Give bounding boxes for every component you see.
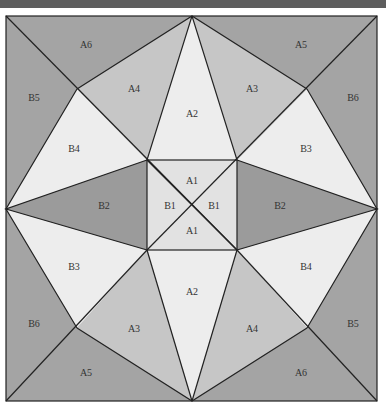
label-a6-top: A6	[80, 39, 92, 50]
label-a3-top: A3	[246, 83, 258, 94]
label-a3-bottom: A3	[128, 323, 140, 334]
label-b6-right: B6	[347, 92, 359, 103]
label-b1-left: B1	[164, 200, 176, 211]
label-b2-left: B2	[98, 200, 110, 211]
label-a2-top: A2	[186, 108, 198, 119]
label-a2-bottom: A2	[186, 286, 198, 297]
label-b4-left: B4	[68, 143, 80, 154]
label-a5-top: A5	[295, 39, 307, 50]
label-b1-right: B1	[208, 200, 220, 211]
label-a6-bottom: A6	[295, 367, 307, 378]
label-b4-right: B4	[300, 261, 312, 272]
label-b6-left: B6	[28, 318, 40, 329]
quilt-diagram: A6 A5 A4 A3 A2 B5 B6 B4 B3 B2 B2 A1 B1 B…	[0, 0, 386, 410]
label-a1-top: A1	[186, 175, 198, 186]
label-b2-right: B2	[274, 200, 286, 211]
label-b5-right: B5	[347, 318, 359, 329]
label-a1-bottom: A1	[186, 225, 198, 236]
label-b3-left: B3	[68, 261, 80, 272]
label-a4-bottom: A4	[246, 323, 258, 334]
label-b3-right: B3	[300, 143, 312, 154]
label-a5-bottom: A5	[80, 367, 92, 378]
label-b5-left: B5	[28, 92, 40, 103]
label-a4-top: A4	[128, 83, 140, 94]
